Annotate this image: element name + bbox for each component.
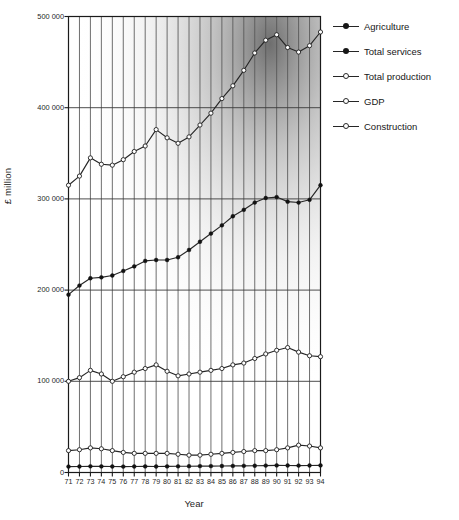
data-point (198, 240, 202, 244)
data-point (242, 449, 246, 453)
legend-marker (343, 123, 349, 129)
data-point (308, 464, 312, 468)
chart-legend: AgricultureTotal servicesTotal productio… (333, 14, 459, 139)
legend-item: GDP (333, 89, 459, 114)
data-point (231, 214, 235, 218)
data-point (121, 269, 125, 273)
chart-figure: 0100 000200 000300 000400 000500 000 717… (0, 0, 459, 520)
data-point (99, 372, 103, 376)
data-point (187, 135, 191, 139)
data-point (143, 451, 147, 455)
data-point (242, 208, 246, 212)
y-axis-tick-label: 0 (4, 468, 64, 477)
legend-item: Total services (333, 39, 459, 64)
data-point (231, 363, 235, 367)
data-point (99, 464, 103, 468)
data-point (296, 50, 300, 54)
data-point (253, 464, 257, 468)
data-point (209, 111, 213, 115)
data-point (264, 449, 268, 453)
data-point (121, 375, 125, 379)
data-point (318, 355, 322, 359)
data-point (242, 361, 246, 365)
data-point (77, 174, 81, 178)
data-point (99, 162, 103, 166)
data-point (88, 368, 92, 372)
data-point (165, 451, 169, 455)
data-point (121, 465, 125, 469)
legend-label: Total production (364, 71, 431, 82)
data-point (187, 453, 191, 457)
data-point (318, 30, 322, 34)
data-point (89, 276, 93, 280)
data-point (187, 372, 191, 376)
data-point (132, 465, 136, 469)
data-point (220, 451, 224, 455)
data-point (318, 446, 322, 450)
data-point (231, 464, 235, 468)
data-point (154, 451, 158, 455)
data-point (319, 463, 323, 467)
data-point (307, 444, 311, 448)
legend-marker-open-icon (333, 96, 359, 108)
data-point (209, 464, 213, 468)
data-point (307, 354, 311, 358)
data-point (286, 200, 290, 204)
legend-label: GDP (364, 96, 385, 107)
legend-marker-filled-icon (333, 46, 359, 58)
data-point (275, 33, 279, 37)
data-point (231, 450, 235, 454)
data-point (297, 201, 301, 205)
legend-marker (343, 23, 349, 29)
legend-marker-open-icon (333, 71, 359, 83)
data-point (110, 449, 114, 453)
data-point (154, 127, 158, 131)
data-point (220, 96, 224, 100)
data-point (165, 258, 169, 262)
data-point (165, 369, 169, 373)
data-point (220, 464, 224, 468)
y-axis-tick-labels: 0100 000200 000300 000400 000500 000 (0, 0, 64, 520)
data-point (264, 196, 268, 200)
data-point (121, 450, 125, 454)
y-axis-tick-label: 100 000 (4, 376, 64, 385)
data-point (176, 255, 180, 259)
data-point (99, 447, 103, 451)
data-point (253, 449, 257, 453)
data-point (88, 446, 92, 450)
data-point (198, 370, 202, 374)
legend-item: Agriculture (333, 14, 459, 39)
data-point (242, 68, 246, 72)
data-point (187, 464, 191, 468)
data-point (198, 123, 202, 127)
data-point (132, 264, 136, 268)
data-point (275, 348, 279, 352)
data-point (198, 453, 202, 457)
data-point (154, 258, 158, 262)
y-axis-tick-label: 300 000 (4, 194, 64, 203)
data-point (296, 443, 300, 447)
data-point (253, 356, 257, 360)
data-point (143, 144, 147, 148)
data-point (110, 163, 114, 167)
legend-marker (343, 48, 349, 54)
x-axis-tick-label: 94 (313, 477, 329, 486)
scan-shading (69, 17, 321, 473)
data-point (286, 446, 290, 450)
data-point (176, 141, 180, 145)
legend-item: Total production (333, 64, 459, 89)
data-point (297, 464, 301, 468)
data-point (110, 274, 114, 278)
data-point (78, 465, 82, 469)
data-point (264, 38, 268, 42)
data-point (78, 284, 82, 288)
data-point (264, 352, 268, 356)
legend-item: Construction (333, 114, 459, 139)
data-point (143, 464, 147, 468)
legend-label: Agriculture (364, 21, 409, 32)
data-point (187, 248, 191, 252)
data-point (67, 293, 71, 297)
y-axis-title: £ million (2, 136, 13, 236)
data-point (242, 464, 246, 468)
data-point (286, 345, 290, 349)
